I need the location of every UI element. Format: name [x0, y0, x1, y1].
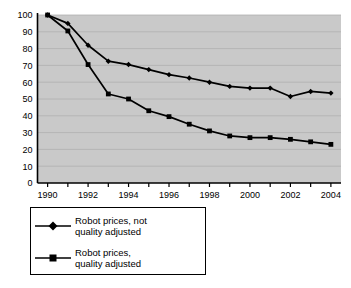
x-axis-tick-label: 2004 — [321, 190, 341, 200]
y-axis-tick-label: 40 — [22, 111, 32, 121]
y-axis-tick-label: 100 — [17, 10, 32, 20]
y-axis-tick-label: 30 — [22, 128, 32, 138]
x-axis-tick-label: 1992 — [78, 190, 98, 200]
diamond-icon — [31, 214, 75, 238]
legend-label-not-quality-adjusted: Robot prices, not quality adjusted — [75, 215, 147, 237]
y-axis-tick-label: 70 — [22, 61, 32, 71]
line-chart-plot: 0102030405060708090100199019921994199619… — [0, 0, 351, 200]
x-axis-tick-label: 1998 — [199, 190, 219, 200]
x-axis-tick-label: 1996 — [159, 190, 179, 200]
x-axis-tick-label: 1990 — [38, 190, 58, 200]
legend-entry-not-quality-adjusted[interactable]: Robot prices, not quality adjusted — [31, 211, 207, 241]
x-axis-tick-label: 2002 — [280, 190, 300, 200]
chart-legend: Robot prices, not quality adjusted Robot… — [30, 207, 206, 275]
x-axis-tick-label: 2000 — [240, 190, 260, 200]
y-axis-tick-label: 20 — [22, 145, 32, 155]
y-axis-tick-label: 50 — [22, 94, 32, 104]
y-axis-tick-label: 60 — [22, 78, 32, 88]
y-axis-tick-label: 0 — [27, 178, 32, 188]
legend-label-quality-adjusted: Robot prices, quality adjusted — [75, 247, 141, 269]
chart-figure: 0102030405060708090100199019921994199619… — [0, 0, 351, 288]
y-axis-tick-label: 80 — [22, 44, 32, 54]
legend-entry-quality-adjusted[interactable]: Robot prices, quality adjusted — [31, 243, 207, 273]
y-axis-tick-label: 90 — [22, 27, 32, 37]
x-axis-tick-label: 1994 — [119, 190, 139, 200]
y-axis-tick-label: 10 — [22, 162, 32, 172]
square-icon — [31, 246, 75, 270]
